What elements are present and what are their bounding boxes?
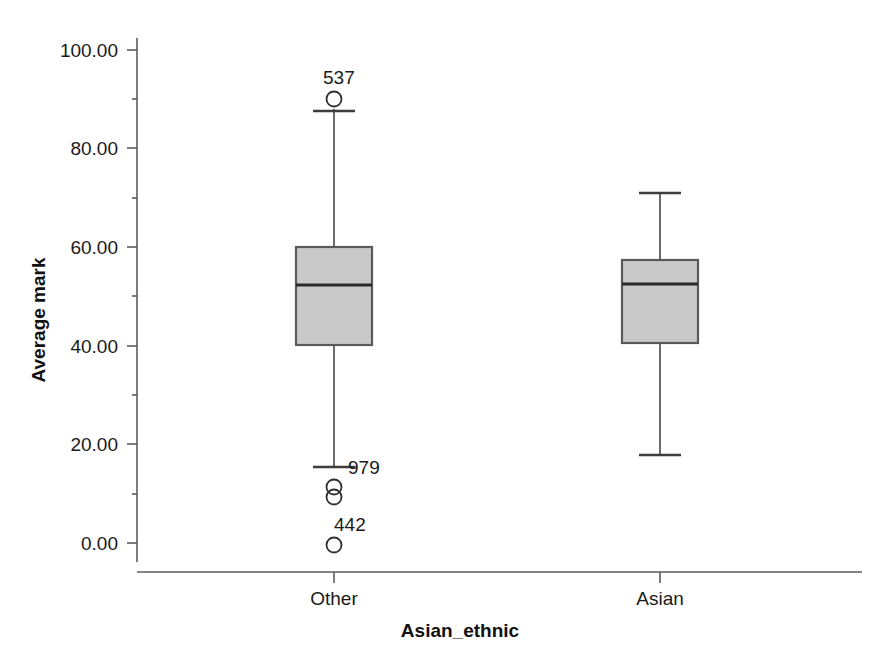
y-tick-label-0: 0.00	[81, 533, 118, 554]
x-tick-label-other: Other	[310, 588, 358, 609]
outlier-marker-442	[327, 538, 342, 553]
y-tick-label-80: 80.00	[70, 138, 118, 159]
boxplot-group-other: 537 979 442	[296, 67, 380, 553]
chart-canvas: 100.00 80.00 60.00 40.00 20.00 0.00 Aver…	[0, 0, 884, 667]
outlier-label-979: 979	[348, 457, 380, 478]
box-asian	[622, 260, 698, 343]
boxplot-group-asian	[622, 193, 698, 455]
y-axis-title: Average mark	[28, 257, 49, 382]
boxplot-chart: 100.00 80.00 60.00 40.00 20.00 0.00 Aver…	[0, 0, 884, 667]
outlier-marker-lower-pair	[327, 490, 342, 505]
y-tick-label-40: 40.00	[70, 336, 118, 357]
y-tick-label-60: 60.00	[70, 237, 118, 258]
x-axis-title: Asian_ethnic	[401, 620, 520, 641]
box-other	[296, 247, 372, 345]
y-tick-label-100: 100.00	[60, 40, 118, 61]
outlier-label-442: 442	[334, 514, 366, 535]
outlier-marker-537	[327, 92, 342, 107]
outlier-label-537: 537	[323, 67, 355, 88]
x-tick-label-asian: Asian	[636, 588, 684, 609]
y-tick-label-20: 20.00	[70, 434, 118, 455]
